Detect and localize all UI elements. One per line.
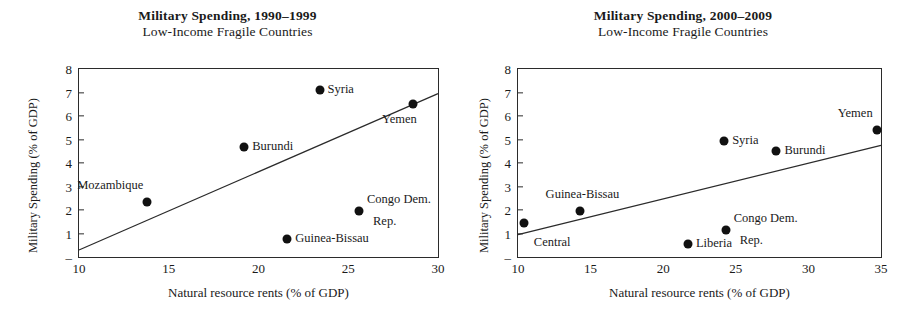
point-label-burundi: Burundi	[252, 140, 293, 153]
y-axis-label-left: Military Spending (% of GDP)	[26, 98, 41, 253]
y-tick-label-1: 1	[505, 227, 519, 240]
y-tick-label-7: 7	[66, 86, 80, 99]
point-label-yemen: Yemen	[382, 114, 417, 127]
data-point-yemen	[408, 100, 417, 109]
x-axis-label-right: Natural resource rents (% of GDP)	[517, 285, 882, 301]
x-tick-label-25: 25	[729, 257, 742, 275]
point-label-burundi: Burundi	[784, 145, 825, 158]
point-label-congo-dem-rep-line1: Congo Dem.	[367, 194, 431, 207]
point-label-congo-dem-rep-line2: Rep.	[373, 216, 396, 229]
y-tick-label-2: 2	[505, 204, 519, 217]
y-tick-label-2: 2	[66, 204, 80, 217]
plot-area-right: –12345678101520253035CentralGuinea-Bissa…	[517, 68, 882, 258]
y-tick-label-8: 8	[66, 63, 80, 76]
x-tick-label-30: 30	[432, 257, 445, 275]
x-tick-label-20: 20	[657, 257, 670, 275]
data-point-mozambique	[143, 197, 152, 206]
y-tick-label-4: 4	[66, 157, 80, 170]
chart-subtitle-right: Low-Income Fragile Countries	[455, 24, 911, 40]
y-tick-label-8: 8	[505, 63, 519, 76]
x-tick-label-10: 10	[512, 257, 525, 275]
x-tick-label-20: 20	[252, 257, 265, 275]
military-spending-figure: Military Spending, 1990–1999 Low-Income …	[0, 0, 911, 319]
point-label-syria: Syria	[328, 84, 354, 97]
chart-subtitle-left: Low-Income Fragile Countries	[0, 24, 455, 40]
x-tick-label-25: 25	[342, 257, 355, 275]
y-tick-label-6: 6	[505, 110, 519, 123]
point-label-guinea-bissau: Guinea-Bissau	[546, 189, 620, 202]
x-tick-label-35: 35	[875, 257, 888, 275]
x-tick-label-15: 15	[162, 257, 175, 275]
point-label-guinea-bissau: Guinea-Bissau	[295, 233, 369, 246]
data-point-burundi	[772, 147, 781, 156]
y-tick-label-6: 6	[66, 110, 80, 123]
data-point-guinea-bissau	[576, 207, 585, 216]
chart-title-block-left: Military Spending, 1990–1999 Low-Income …	[0, 8, 455, 40]
point-label-syria: Syria	[732, 134, 758, 147]
x-tick-label-10: 10	[73, 257, 86, 275]
x-tick-label-15: 15	[584, 257, 597, 275]
point-label-congo-dem-rep-line1: Congo Dem.	[734, 212, 798, 225]
data-point-central	[519, 218, 528, 227]
chart-title-left: Military Spending, 1990–1999	[0, 8, 455, 24]
data-point-liberia	[683, 240, 692, 249]
point-label-liberia: Liberia	[696, 238, 732, 251]
chart-title-block-right: Military Spending, 2000–2009 Low-Income …	[455, 8, 911, 40]
x-axis-label-left: Natural resource rents (% of GDP)	[78, 285, 439, 301]
plot-area-left: –123456781015202530MozambiqueBurundiSyri…	[78, 68, 439, 258]
y-tick-label-3: 3	[505, 180, 519, 193]
point-label-yemen: Yemen	[838, 108, 873, 121]
trend-line	[79, 69, 438, 257]
chart-title-right: Military Spending, 2000–2009	[455, 8, 911, 24]
y-tick-label-7: 7	[505, 86, 519, 99]
point-label-congo-dem-rep-line2: Rep.	[740, 234, 763, 247]
y-tick-label-4: 4	[505, 157, 519, 170]
data-point-burundi	[240, 142, 249, 151]
point-label-mozambique: Mozambique	[77, 179, 143, 192]
y-tick-label-5: 5	[505, 133, 519, 146]
y-tick-label-5: 5	[66, 133, 80, 146]
data-point-yemen	[872, 126, 881, 135]
point-label-central: Central	[534, 236, 571, 249]
chart-panel-2000-2009: Military Spending, 2000–2009 Low-Income …	[455, 0, 911, 319]
y-tick-label-1: 1	[66, 227, 80, 240]
data-point-congo-dem-rep	[721, 225, 730, 234]
data-point-syria	[315, 86, 324, 95]
x-tick-label-30: 30	[802, 257, 815, 275]
data-point-congo-dem-rep	[355, 207, 364, 216]
y-axis-label-right: Military Spending (% of GDP)	[477, 98, 492, 253]
data-point-guinea-bissau	[283, 235, 292, 244]
trend-line	[518, 69, 881, 257]
chart-panel-1990-1999: Military Spending, 1990–1999 Low-Income …	[0, 0, 455, 319]
data-point-syria	[720, 136, 729, 145]
